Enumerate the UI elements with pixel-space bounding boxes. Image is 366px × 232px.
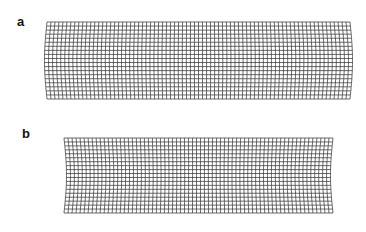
mesh-grid-b <box>64 138 333 213</box>
deformed-mesh-grids <box>0 0 366 232</box>
mesh-grid-a <box>45 22 353 99</box>
